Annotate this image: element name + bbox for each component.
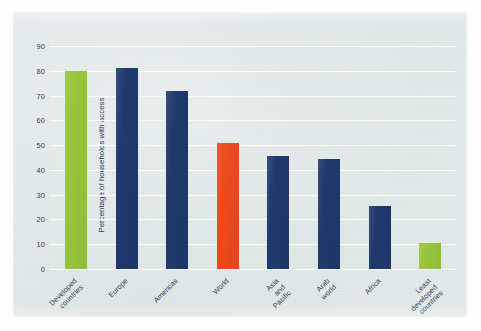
bar[interactable] xyxy=(267,156,289,269)
plot-panel: Percentage of households with access 010… xyxy=(14,13,466,316)
bar[interactable] xyxy=(369,206,391,269)
bar-shading xyxy=(419,243,441,269)
y-tick-label: 70 xyxy=(37,91,45,100)
bar-shading xyxy=(65,71,87,269)
bar-series xyxy=(50,23,455,269)
y-tick-label: 50 xyxy=(37,141,45,150)
y-tick-label: 80 xyxy=(37,66,45,75)
plot-area: 0102030405060708090 Developed countriesE… xyxy=(50,23,455,272)
bar[interactable] xyxy=(419,243,441,269)
bar[interactable] xyxy=(166,91,188,269)
bar-shading xyxy=(217,143,239,269)
bar[interactable] xyxy=(318,159,340,269)
bar-shading xyxy=(369,206,391,269)
bar-shading xyxy=(267,156,289,269)
y-tick-label: 90 xyxy=(37,42,45,51)
bar-shading xyxy=(166,91,188,269)
y-tick-label: 60 xyxy=(37,116,45,125)
y-tick-label: 0 xyxy=(41,265,45,274)
bar-shading xyxy=(318,159,340,269)
y-tick-label: 30 xyxy=(37,190,45,199)
y-tick-label: 20 xyxy=(37,215,45,224)
bar[interactable] xyxy=(65,71,87,269)
chart-figure: Percentage of households with access 010… xyxy=(0,0,481,331)
y-tick-label: 10 xyxy=(37,240,45,249)
y-tick-label: 40 xyxy=(37,165,45,174)
bar[interactable] xyxy=(116,68,138,269)
gridline xyxy=(50,269,455,270)
bar[interactable] xyxy=(217,143,239,269)
bar-shading xyxy=(116,68,138,269)
